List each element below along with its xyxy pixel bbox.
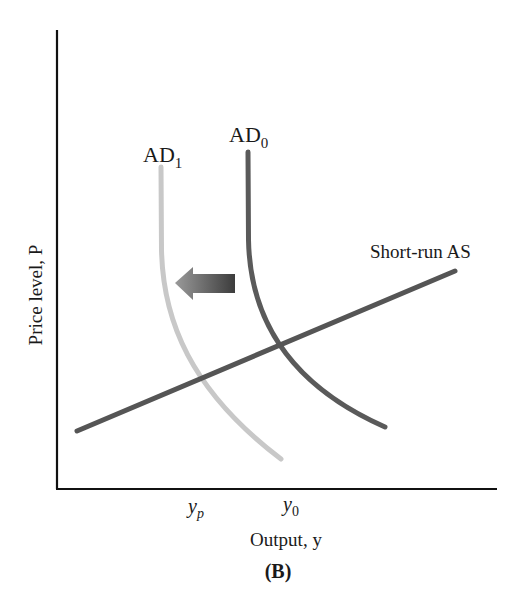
x-tick-y0: y0	[281, 493, 299, 519]
x-tick-yp: yp	[186, 495, 204, 521]
x-axis-title: Output, y	[250, 529, 322, 550]
short-run-as-line	[77, 271, 455, 431]
aggregate-demand-shift-chart: AD1 AD0 Short-run AS yp y0 Output, y Pri…	[0, 0, 520, 614]
short-run-as-label: Short-run AS	[370, 241, 471, 262]
y-axis-title: Price level, P	[25, 245, 46, 346]
left-shift-arrow-icon	[175, 267, 235, 300]
ad0-curve	[248, 152, 385, 427]
panel-label: (B)	[265, 560, 292, 583]
ad0-label: AD0	[229, 122, 268, 151]
ad1-label: AD1	[143, 142, 182, 171]
